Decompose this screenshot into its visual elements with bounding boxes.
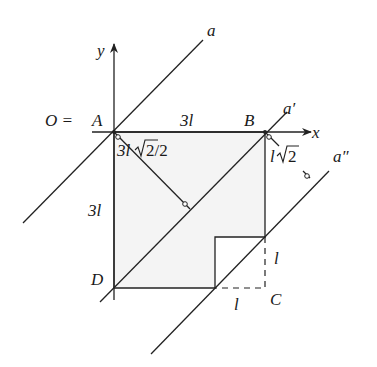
x-axis-label: x [311, 123, 320, 142]
geometry-diagram: y x O = A B C D a a′ a″ 3l 3l l l 3l 2/2… [0, 0, 377, 367]
point-A-label: A [91, 111, 103, 130]
left-side-label: 3l [87, 201, 102, 220]
svg-text:2: 2 [288, 147, 297, 166]
point-C-label: C [270, 290, 282, 309]
marker-B [267, 135, 272, 140]
svg-text:2/2: 2/2 [146, 141, 168, 160]
line-a-prime-label: a′ [283, 99, 296, 118]
svg-text:3l: 3l [116, 141, 131, 160]
point-B [263, 130, 267, 134]
marker-A [116, 135, 121, 140]
svg-text:l: l [270, 147, 275, 166]
line-a-double-prime-label: a″ [333, 147, 350, 166]
point-D-label: D [90, 270, 104, 289]
point-A [112, 130, 116, 134]
y-axis-label: y [95, 41, 105, 60]
point-B-label: B [244, 111, 255, 130]
cut-horizontal-label: l [234, 295, 239, 314]
line-a-label: a [207, 21, 216, 40]
origin-label: O = [45, 111, 73, 130]
marker-a-double-prime [305, 174, 310, 179]
top-side-label: 3l [179, 111, 194, 130]
cut-vertical-label: l [274, 249, 279, 268]
distance-B-label: l 2 [270, 146, 299, 166]
marker-a-prime [183, 202, 188, 207]
